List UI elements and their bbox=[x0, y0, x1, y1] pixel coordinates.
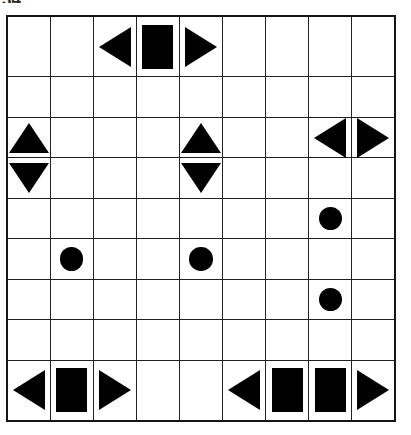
grid-cell-r7-c3[interactable] bbox=[93, 279, 136, 320]
grid-cell-r2-c6[interactable] bbox=[223, 77, 266, 118]
grid-cell-content bbox=[8, 118, 50, 158]
grid-cell-content bbox=[266, 77, 308, 117]
grid-cell-r8-c6[interactable] bbox=[223, 320, 266, 361]
grid-cell-r7-c9[interactable] bbox=[352, 279, 395, 320]
grid-cell-r5-c1[interactable] bbox=[7, 198, 50, 239]
grid-cell-r6-c7[interactable] bbox=[266, 239, 309, 280]
grid-cell-r6-c2[interactable] bbox=[50, 239, 93, 280]
grid-cell-r7-c7[interactable] bbox=[266, 279, 309, 320]
grid-cell-r9-c8[interactable] bbox=[309, 360, 352, 421]
grid-cell-r4-c8[interactable] bbox=[309, 158, 352, 199]
grid-cell-r9-c1[interactable] bbox=[7, 360, 50, 421]
grid-cell-r4-c4[interactable] bbox=[136, 158, 179, 199]
grid-cell-r4-c1[interactable] bbox=[7, 158, 50, 199]
grid-cell-r9-c2[interactable] bbox=[50, 360, 93, 421]
grid-cell-r1-c1[interactable] bbox=[7, 16, 50, 77]
shape-grid bbox=[6, 15, 396, 422]
grid-cell-r7-c5[interactable] bbox=[179, 279, 222, 320]
grid-cell-r1-c8[interactable] bbox=[309, 16, 352, 77]
grid-cell-r7-c6[interactable] bbox=[223, 279, 266, 320]
grid-cell-r9-c6[interactable] bbox=[223, 360, 266, 421]
grid-cell-r4-c5[interactable] bbox=[179, 158, 222, 199]
grid-cell-r4-c2[interactable] bbox=[50, 158, 93, 199]
grid-cell-r1-c2[interactable] bbox=[50, 16, 93, 77]
grid-cell-r1-c9[interactable] bbox=[352, 16, 395, 77]
grid-cell-r3-c4[interactable] bbox=[136, 117, 179, 158]
grid-cell-content bbox=[8, 361, 50, 420]
grid-cell-r8-c7[interactable] bbox=[266, 320, 309, 361]
grid-cell-r1-c4[interactable] bbox=[136, 16, 179, 77]
grid-cell-content bbox=[180, 361, 222, 420]
grid-cell-r5-c7[interactable] bbox=[266, 198, 309, 239]
grid-cell-r1-c3[interactable] bbox=[93, 16, 136, 77]
grid-cell-r2-c8[interactable] bbox=[309, 77, 352, 118]
square-icon bbox=[315, 368, 346, 412]
triangle-right-icon bbox=[99, 370, 131, 410]
grid-cell-content bbox=[352, 77, 394, 117]
grid-cell-content bbox=[8, 239, 50, 279]
grid-cell-r5-c3[interactable] bbox=[93, 198, 136, 239]
grid-cell-r4-c3[interactable] bbox=[93, 158, 136, 199]
grid-cell-r9-c9[interactable] bbox=[352, 360, 395, 421]
grid-cell-r3-c6[interactable] bbox=[223, 117, 266, 158]
grid-cell-r9-c7[interactable] bbox=[266, 360, 309, 421]
grid-cell-r1-c7[interactable] bbox=[266, 16, 309, 77]
grid-cell-r6-c1[interactable] bbox=[7, 239, 50, 280]
circle-icon bbox=[60, 247, 84, 271]
triangle-up-icon bbox=[181, 123, 221, 153]
grid-cell-r9-c3[interactable] bbox=[93, 360, 136, 421]
grid-cell-r8-c9[interactable] bbox=[352, 320, 395, 361]
grid-cell-r3-c7[interactable] bbox=[266, 117, 309, 158]
grid-cell-r2-c4[interactable] bbox=[136, 77, 179, 118]
grid-cell-r3-c2[interactable] bbox=[50, 117, 93, 158]
grid-cell-r5-c6[interactable] bbox=[223, 198, 266, 239]
grid-cell-content bbox=[137, 118, 179, 158]
grid-cell-r5-c4[interactable] bbox=[136, 198, 179, 239]
grid-cell-r3-c8[interactable] bbox=[309, 117, 352, 158]
grid-cell-r8-c2[interactable] bbox=[50, 320, 93, 361]
grid-cell-r2-c2[interactable] bbox=[50, 77, 93, 118]
grid-cell-r1-c5[interactable] bbox=[179, 16, 222, 77]
grid-cell-r6-c6[interactable] bbox=[223, 239, 266, 280]
grid-cell-r5-c9[interactable] bbox=[352, 198, 395, 239]
grid-cell-r6-c5[interactable] bbox=[179, 239, 222, 280]
grid-cell-r8-c5[interactable] bbox=[179, 320, 222, 361]
grid-cell-r2-c1[interactable] bbox=[7, 77, 50, 118]
grid-cell-r4-c6[interactable] bbox=[223, 158, 266, 199]
grid-cell-content bbox=[352, 280, 394, 320]
grid-cell-r4-c7[interactable] bbox=[266, 158, 309, 199]
grid-cell-r7-c2[interactable] bbox=[50, 279, 93, 320]
grid-cell-r6-c3[interactable] bbox=[93, 239, 136, 280]
grid-cell-content bbox=[8, 199, 50, 239]
grid-cell-r6-c9[interactable] bbox=[352, 239, 395, 280]
grid-cell-r2-c5[interactable] bbox=[179, 77, 222, 118]
grid-cell-r2-c9[interactable] bbox=[352, 77, 395, 118]
grid-cell-r7-c4[interactable] bbox=[136, 279, 179, 320]
grid-cell-r5-c2[interactable] bbox=[50, 198, 93, 239]
grid-cell-r1-c6[interactable] bbox=[223, 16, 266, 77]
grid-cell-r9-c5[interactable] bbox=[179, 360, 222, 421]
grid-cell-r7-c1[interactable] bbox=[7, 279, 50, 320]
square-icon bbox=[56, 368, 87, 412]
grid-cell-r2-c3[interactable] bbox=[93, 77, 136, 118]
grid-cell-r3-c1[interactable] bbox=[7, 117, 50, 158]
grid-cell-content bbox=[51, 280, 93, 320]
triangle-right-icon bbox=[185, 27, 217, 67]
grid-cell-r5-c8[interactable] bbox=[309, 198, 352, 239]
grid-row bbox=[7, 239, 395, 280]
grid-cell-r7-c8[interactable] bbox=[309, 279, 352, 320]
grid-cell-r6-c8[interactable] bbox=[309, 239, 352, 280]
grid-cell-r6-c4[interactable] bbox=[136, 239, 179, 280]
grid-cell-r3-c5[interactable] bbox=[179, 117, 222, 158]
grid-cell-r9-c4[interactable] bbox=[136, 360, 179, 421]
grid-cell-r4-c9[interactable] bbox=[352, 158, 395, 199]
grid-cell-r8-c4[interactable] bbox=[136, 320, 179, 361]
grid-cell-content bbox=[137, 17, 179, 76]
grid-cell-r3-c9[interactable] bbox=[352, 117, 395, 158]
grid-cell-r5-c5[interactable] bbox=[179, 198, 222, 239]
grid-cell-r8-c3[interactable] bbox=[93, 320, 136, 361]
grid-cell-r2-c7[interactable] bbox=[266, 77, 309, 118]
grid-cell-r8-c1[interactable] bbox=[7, 320, 50, 361]
grid-cell-r8-c8[interactable] bbox=[309, 320, 352, 361]
grid-cell-r3-c3[interactable] bbox=[93, 117, 136, 158]
